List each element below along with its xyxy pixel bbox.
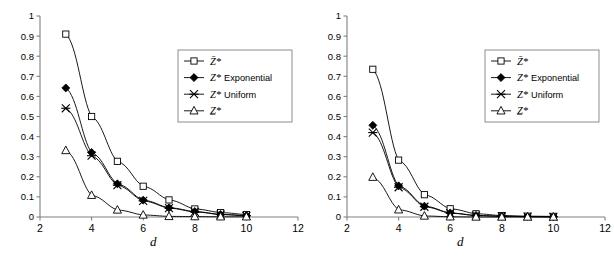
right-x-tick-label: 12: [599, 222, 611, 234]
left-legend-label: Z̄*: [210, 56, 222, 67]
right-marker-open-triangle: [395, 205, 403, 213]
right-legend: Z̄*Z*ExponentialZ*UniformZ̲*: [485, 50, 599, 122]
left-y-tick-label: 0.2: [21, 171, 34, 182]
left-legend-label: Z*Exponential: [210, 72, 272, 83]
right-panel: 00.10.20.30.40.50.60.70.80.9124681012Z̄*…: [307, 0, 614, 260]
left-x-tick-label: 8: [192, 222, 198, 234]
left-legend: Z̄*Z*ExponentialZ*UniformZ̲*: [178, 50, 292, 122]
left-legend-label: Z̲*: [210, 105, 222, 116]
right-x-tick-label: 10: [548, 222, 560, 234]
right-line-Z-star-uniform: [373, 133, 554, 217]
right-line-Z-star-exponential: [373, 125, 554, 216]
left-panel: 00.10.20.30.40.50.60.70.80.9124681012Z̄*…: [0, 0, 307, 260]
left-y-tick-label: 0.8: [21, 51, 34, 62]
left-line-Z-lower-star: [66, 150, 247, 216]
left-marker-open-square: [140, 183, 146, 189]
right-y-tick-label: 0.8: [328, 51, 341, 62]
left-x-tick-label: 4: [89, 222, 95, 234]
right-y-tick-label: 0.2: [328, 171, 341, 182]
right-y-tick-label: 0.4: [328, 131, 341, 142]
right-y-tick-label: 0.5: [328, 111, 341, 122]
right-x-axis-label: d: [457, 235, 464, 248]
left-marker-open-triangle: [191, 212, 199, 220]
left-y-tick-label: 0.7: [21, 71, 34, 82]
left-y-tick-label: 0.4: [21, 131, 34, 142]
right-series-Z-star-exponential: [369, 121, 558, 220]
left-marker-open-triangle: [165, 212, 173, 220]
right-x-tick-label: 6: [447, 222, 453, 234]
left-marker-open-square: [166, 197, 172, 203]
left-y-tick-label: 0.9: [21, 31, 34, 42]
right-y-tick-label: 0.6: [328, 91, 341, 102]
left-y-tick-label: 0: [29, 211, 34, 222]
left-y-tick-label: 0.5: [21, 111, 34, 122]
right-x-tick-label: 2: [344, 222, 350, 234]
left-marker-cross-x: [61, 104, 70, 112]
right-marker-open-triangle: [369, 173, 377, 181]
left-x-tick-label: 2: [37, 222, 43, 234]
left-marker-open-square: [88, 113, 94, 119]
left-legend-label: Z*Uniform: [210, 89, 257, 100]
right-y-tick-label: 0.1: [328, 191, 341, 202]
left-marker-open-square: [63, 31, 69, 37]
left-marker-open-triangle: [113, 206, 121, 214]
right-x-tick-label: 8: [499, 222, 505, 234]
right-marker-open-square: [370, 66, 376, 72]
right-legend-label: Z*Exponential: [517, 72, 579, 83]
right-series-Z-star-uniform: [368, 129, 558, 221]
left-y-tick-label: 0.3: [21, 151, 34, 162]
left-marker-open-square: [114, 158, 120, 164]
right-marker-open-square: [421, 192, 427, 198]
left-x-tick-label: 10: [241, 222, 253, 234]
right-chart-svg: 00.10.20.30.40.50.60.70.80.9124681012Z̄*…: [307, 0, 614, 260]
left-x-tick-label: 6: [140, 222, 146, 234]
left-marker-open-triangle: [62, 146, 70, 154]
right-y-tick-label: 0.3: [328, 151, 341, 162]
right-marker-open-square: [395, 157, 401, 163]
left-line-Z-star-uniform: [66, 108, 247, 216]
right-y-tick-label: 0.9: [328, 31, 341, 42]
right-y-tick-label: 0: [336, 211, 341, 222]
left-y-tick-label: 1: [29, 10, 34, 21]
right-legend-label: Z*Uniform: [517, 89, 564, 100]
left-x-axis-label: d: [150, 235, 157, 248]
left-y-tick-label: 0.1: [21, 191, 34, 202]
right-legend-label: Z̄*: [517, 56, 529, 67]
left-y-tick-label: 0.6: [21, 91, 34, 102]
right-legend-label: Z̲*: [517, 105, 529, 116]
right-x-tick-label: 4: [396, 222, 402, 234]
figure-two-panel-line-charts: 00.10.20.30.40.50.60.70.80.9124681012Z̄*…: [0, 0, 614, 260]
left-chart-svg: 00.10.20.30.40.50.60.70.80.9124681012Z̄*…: [0, 0, 307, 260]
left-legend-marker-open-square: [191, 58, 197, 64]
right-legend-marker-open-square: [498, 58, 504, 64]
right-y-tick-label: 1: [336, 10, 341, 21]
left-x-tick-label: 12: [292, 222, 304, 234]
right-y-tick-label: 0.7: [328, 71, 341, 82]
